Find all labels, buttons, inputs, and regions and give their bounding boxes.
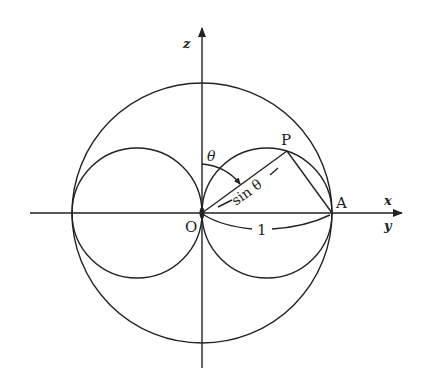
y-axis-label: y: [383, 218, 393, 233]
dimension-1-left: [204, 215, 252, 229]
point-p-label: P: [281, 131, 291, 149]
origin-label: O: [185, 218, 197, 236]
dipole-diagram: z x y O P A θ sin θ 1: [0, 0, 424, 389]
z-axis-label: z: [182, 36, 191, 51]
sin-dim-dash-right: [270, 168, 278, 175]
sin-dim-dash-left: [218, 200, 232, 207]
line-pa: [287, 151, 332, 213]
x-axis-label: x: [383, 193, 392, 208]
dimension-1-right: [272, 215, 330, 229]
unit-length-label: 1: [257, 221, 267, 239]
origin-marker: [200, 207, 205, 219]
theta-label: θ: [207, 148, 216, 164]
point-a-label: A: [335, 194, 347, 212]
